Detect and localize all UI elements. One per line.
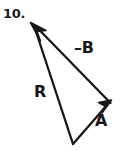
vector-label-a: A: [95, 113, 107, 129]
arrowhead-top-icon: [31, 23, 47, 42]
vector-label-r: R: [34, 84, 46, 100]
problem-number: 10.: [3, 7, 25, 20]
vector-triangle-figure: [0, 0, 131, 156]
vector-label-neg-b: –B: [74, 40, 94, 56]
